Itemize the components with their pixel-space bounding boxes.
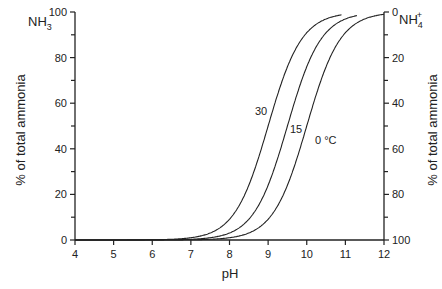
right-y-tick-label: 0 (392, 6, 398, 18)
curve-label-30: 30 (255, 105, 267, 117)
right-y-tick-label: 80 (392, 188, 404, 200)
curve-0c (75, 14, 384, 240)
x-axis-label: pH (222, 266, 239, 281)
left-y-tick-label: 20 (55, 188, 67, 200)
x-tick-label: 8 (226, 248, 232, 260)
ammonia-ph-chart: 456789101112020406080100100806040200 NH3… (0, 0, 442, 289)
curve-label-0c: 0 °C (315, 134, 337, 146)
right-y-tick-label: 40 (392, 97, 404, 109)
x-tick-label: 11 (340, 248, 351, 260)
right-y-tick-label: 20 (392, 52, 404, 64)
x-tick-label: 7 (188, 248, 194, 260)
curve-15c (75, 16, 357, 240)
left-y-tick-label: 0 (61, 234, 67, 246)
left-y-tick-label: 80 (55, 52, 67, 64)
left-y-tick-label: 100 (49, 6, 67, 18)
x-tick-label: 4 (72, 248, 78, 260)
right-y-tick-label: 60 (392, 143, 404, 155)
x-tick-label: 9 (265, 248, 271, 260)
right-y-tick-label: 100 (392, 234, 410, 246)
x-tick-label: 10 (301, 248, 313, 260)
x-tick-label: 12 (378, 248, 390, 260)
right-species-label: NH4+ (399, 10, 423, 30)
left-y-tick-label: 40 (55, 143, 67, 155)
right-y-axis-label: % of total ammonia (425, 74, 440, 186)
x-tick-label: 6 (149, 248, 155, 260)
curve-label-15: 15 (290, 123, 302, 135)
left-y-axis-label: % of total ammonia (13, 74, 28, 186)
x-tick-label: 5 (111, 248, 117, 260)
left-y-tick-label: 60 (55, 97, 67, 109)
